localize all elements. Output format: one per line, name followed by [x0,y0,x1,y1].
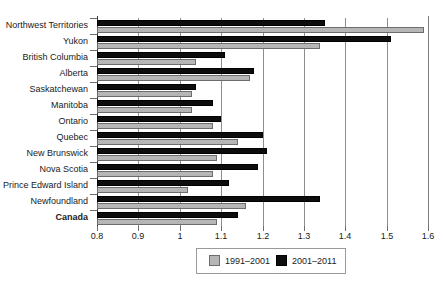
x-tick-label-0.9: 0.9 [118,231,158,241]
y-axis-label-northwest-territories: Northwest Territories [6,21,88,30]
y-axis-label-yukon: Yukon [63,37,88,46]
y-tick-mark-11 [90,194,97,195]
y-axis-label-british-columbia: British Columbia [22,53,88,62]
bar-british-columbia-2001-2011 [97,52,225,58]
bar-newfoundland-2001-2011 [97,196,320,202]
legend-item-0: 1991–2001 [209,255,270,266]
y-axis-label-saskatchewan: Saskatchewan [29,85,88,94]
x-tick-label-0.8: 0.8 [77,231,117,241]
bar-alberta-2001-2011 [97,68,254,74]
bar-newfoundland-1991-2001 [97,203,246,209]
y-tick-mark-8 [90,146,97,147]
y-axis-label-alberta: Alberta [59,69,88,78]
bar-manitoba-2001-2011 [97,100,213,106]
bar-northwest-territories-1991-2001 [97,27,424,33]
y-tick-mark-10 [90,178,97,179]
y-axis-label-quebec: Quebec [56,133,88,142]
bar-alberta-1991-2001 [97,75,250,81]
bar-manitoba-1991-2001 [97,107,192,113]
y-tick-mark-12 [90,210,97,211]
bar-northwest-territories-2001-2011 [97,20,325,26]
gridline-0.9 [138,18,139,226]
gridline-1.2 [263,18,264,226]
y-tick-mark-3 [90,66,97,67]
y-axis-label-prince-edward-island: Prince Edward Island [3,181,88,190]
y-tick-mark-1 [90,34,97,35]
x-tick-label-1.1: 1.1 [201,231,241,241]
bar-ontario-2001-2011 [97,116,221,122]
bar-quebec-2001-2011 [97,132,263,138]
bar-new-brunswick-2001-2011 [97,148,267,154]
gridline-1 [180,18,181,226]
x-tick-label-1: 1 [160,231,200,241]
bar-prince-edward-island-2001-2011 [97,180,229,186]
legend-swatch-black [276,255,287,266]
chart-legend: 1991–2001 2001–2011 [196,248,346,274]
y-axis-label-new-brunswick: New Brunswick [26,149,88,158]
bar-chart: Northwest TerritoriesYukonBritish Columb… [0,0,443,287]
x-tick-label-1.6: 1.6 [408,231,443,241]
gridline-1.4 [345,18,346,226]
y-tick-mark-2 [90,50,97,51]
y-axis-label-nova-scotia: Nova Scotia [39,165,88,174]
plot-right-border [428,16,429,228]
legend-label-1: 2001–2011 [292,256,336,266]
y-tick-mark-5 [90,98,97,99]
y-axis-label-canada: Canada [55,213,88,222]
y-axis-label-manitoba: Manitoba [51,101,88,110]
y-axis-label-ontario: Ontario [58,117,88,126]
bar-prince-edward-island-1991-2001 [97,187,188,193]
bar-canada-2001-2011 [97,212,238,218]
legend-item-1: 2001–2011 [276,255,336,266]
y-tick-mark-7 [90,130,97,131]
gridline-1.3 [304,18,305,226]
bar-canada-1991-2001 [97,219,217,225]
legend-label-0: 1991–2001 [225,256,270,266]
y-axis-label-newfoundland: Newfoundland [30,197,88,206]
legend-swatch-gray [209,255,220,266]
gridline-1.1 [221,18,222,226]
y-tick-mark-6 [90,114,97,115]
bar-british-columbia-1991-2001 [97,59,196,65]
bar-yukon-2001-2011 [97,36,391,42]
bar-saskatchewan-1991-2001 [97,91,192,97]
bar-saskatchewan-2001-2011 [97,84,196,90]
y-tick-mark-4 [90,82,97,83]
x-tick-label-1.5: 1.5 [367,231,407,241]
bar-yukon-1991-2001 [97,43,320,49]
bar-ontario-1991-2001 [97,123,213,129]
x-tick-label-1.2: 1.2 [243,231,283,241]
bar-nova-scotia-1991-2001 [97,171,213,177]
x-tick-label-1.3: 1.3 [284,231,324,241]
bar-new-brunswick-1991-2001 [97,155,217,161]
y-tick-mark-0 [90,18,97,19]
gridline-1.5 [387,18,388,226]
bar-quebec-1991-2001 [97,139,238,145]
y-tick-mark-9 [90,162,97,163]
x-tick-label-1.4: 1.4 [325,231,365,241]
bar-nova-scotia-2001-2011 [97,164,258,170]
